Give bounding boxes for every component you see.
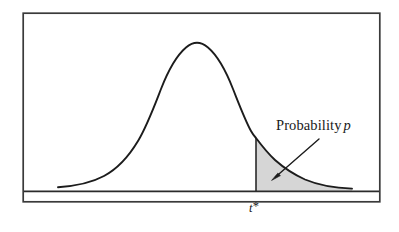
annotation-arrow-shaft: [276, 139, 320, 177]
distribution-curve: [58, 43, 352, 189]
probability-annotation-text: Probability: [276, 117, 342, 133]
figure-container: Probabilityp t*: [0, 0, 399, 232]
figure-canvas: [0, 0, 399, 232]
probability-variable-p: p: [342, 117, 351, 133]
probability-annotation-label: Probabilityp: [276, 117, 351, 134]
figure-frame: [23, 13, 380, 202]
cutoff-axis-label: t*: [249, 199, 259, 216]
cutoff-label-star: *: [252, 199, 258, 213]
shaded-tail-region: [256, 138, 352, 191]
